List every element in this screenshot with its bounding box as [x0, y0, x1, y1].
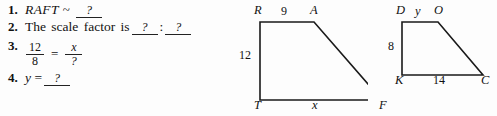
question-prompt-2: The scale factor is	[25, 19, 130, 34]
answer-blank-2b[interactable]: ?	[165, 22, 191, 35]
question-number-1: 1.	[8, 2, 25, 18]
side-length-RA: 9	[281, 4, 287, 19]
similarity-subject-1: RAFT	[25, 2, 59, 17]
fraction-left-denominator: 8	[29, 55, 41, 68]
question-text-4: y =?	[25, 70, 72, 86]
answer-blank-1a[interactable]: ?	[76, 5, 102, 18]
side-length-KC: 14	[433, 73, 445, 88]
trapezoid-raft-outline	[260, 22, 368, 100]
similar-to-symbol: ~	[59, 2, 74, 18]
vertex-label-C: C	[481, 73, 489, 88]
vertex-label-T: T	[254, 98, 261, 113]
figure-trapezoid-dock: D O C K y 8 14	[380, 0, 497, 116]
ratio-separator: :	[160, 19, 164, 34]
side-length-TF: x	[312, 98, 318, 113]
vertex-label-R: R	[254, 3, 262, 18]
question-number-2: 2.	[8, 19, 25, 35]
fraction-right-numerator: x	[68, 41, 79, 54]
fraction-left: 12 8	[26, 41, 44, 67]
side-length-DK: 8	[388, 39, 394, 54]
question-item-3: 3. 12 8 = x ?	[8, 38, 233, 66]
side-length-DO: y	[415, 4, 421, 19]
question-item-1: 1. RAFT~?	[8, 2, 233, 18]
vertex-label-K: K	[395, 73, 403, 88]
figure-trapezoid-raft: R A F T 9 12 x	[228, 0, 368, 116]
vertex-label-A: A	[310, 3, 318, 18]
side-length-RT: 12	[239, 48, 251, 63]
question-item-2: 2. The scale factor is?:?	[8, 19, 233, 35]
question-list: 1. RAFT~? 2. The scale factor is?:? 3. 1…	[8, 2, 233, 87]
answer-blank-2a[interactable]: ?	[132, 22, 158, 35]
question-text-1: RAFT~?	[25, 2, 104, 18]
equals-sign-3: =	[51, 46, 58, 62]
fraction-left-numerator: 12	[26, 41, 44, 54]
proportion-equation: 12 8 = x ?	[25, 41, 83, 67]
answer-blank-4a[interactable]: ?	[44, 73, 70, 86]
fraction-right-denominator[interactable]: ?	[68, 55, 80, 68]
trapezoid-dock-outline	[402, 22, 483, 75]
vertex-label-O: O	[434, 3, 443, 18]
question-text-3: 12 8 = x ?	[25, 38, 83, 66]
worksheet-page: 1. RAFT~? 2. The scale factor is?:? 3. 1…	[0, 0, 497, 116]
question-item-4: 4. y =?	[8, 70, 233, 86]
question-number-3: 3.	[8, 38, 25, 54]
question-text-2: The scale factor is?:?	[25, 19, 193, 35]
fraction-right: x ?	[65, 41, 82, 67]
vertex-label-D: D	[396, 3, 405, 18]
variable-y: y	[25, 70, 31, 85]
equals-sign-4: =	[34, 70, 42, 85]
question-number-4: 4.	[8, 70, 25, 86]
